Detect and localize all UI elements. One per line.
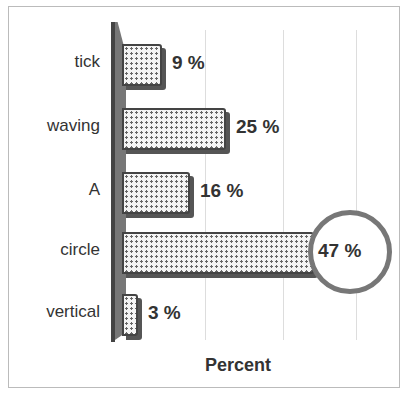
bar xyxy=(122,172,190,214)
category-label: tick xyxy=(0,52,100,72)
category-label: A xyxy=(0,180,100,200)
category-label: waving xyxy=(0,116,100,136)
value-label: 25 % xyxy=(236,116,279,138)
value-label: 3 % xyxy=(148,302,181,324)
bar xyxy=(122,108,226,150)
value-label: 16 % xyxy=(200,180,243,202)
bar xyxy=(122,44,162,86)
bar xyxy=(122,232,314,274)
value-label: 47 % xyxy=(318,240,361,262)
value-label: 9 % xyxy=(172,52,205,74)
category-label: vertical xyxy=(0,302,100,322)
category-label: circle xyxy=(0,240,100,260)
bar xyxy=(122,294,138,336)
gridline xyxy=(283,30,284,340)
x-axis-label: Percent xyxy=(205,355,271,376)
y-axis xyxy=(111,22,115,342)
